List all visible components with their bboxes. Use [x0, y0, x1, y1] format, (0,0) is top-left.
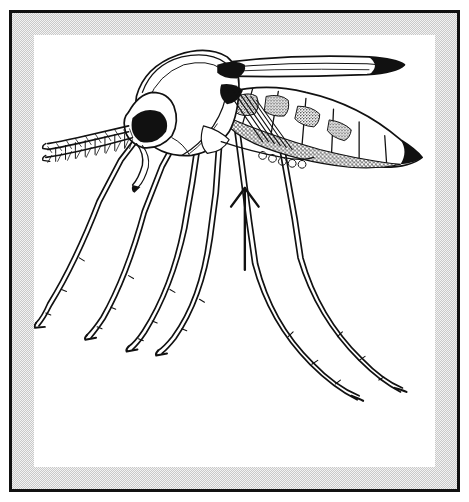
midleg-left-a [85, 126, 186, 340]
mosquito-illustration [34, 35, 435, 467]
midleg-right [235, 132, 363, 401]
figure-page [0, 0, 469, 502]
hindleg-left [156, 138, 222, 356]
figure-plate [9, 10, 460, 492]
hindleg-right [276, 130, 406, 392]
figure-window [34, 35, 435, 467]
pointer-arrow [231, 188, 259, 270]
